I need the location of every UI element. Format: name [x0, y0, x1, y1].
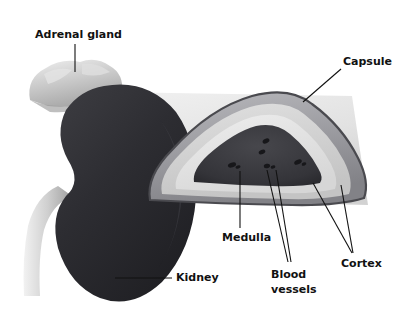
label-medulla: Medulla — [222, 231, 271, 244]
label-adrenal-gland: Adrenal gland — [35, 28, 122, 41]
label-blood-vessels-line2: vessels — [271, 283, 317, 296]
label-blood-vessels: Blood vessels — [271, 267, 331, 297]
label-capsule: Capsule — [343, 55, 392, 68]
label-blood-vessels-line1: Blood — [271, 268, 306, 281]
label-cortex: Cortex — [341, 257, 382, 270]
label-kidney: Kidney — [176, 271, 219, 284]
kidney-diagram-figure: Adrenal gland Capsule Kidney Medulla Blo… — [0, 0, 400, 321]
